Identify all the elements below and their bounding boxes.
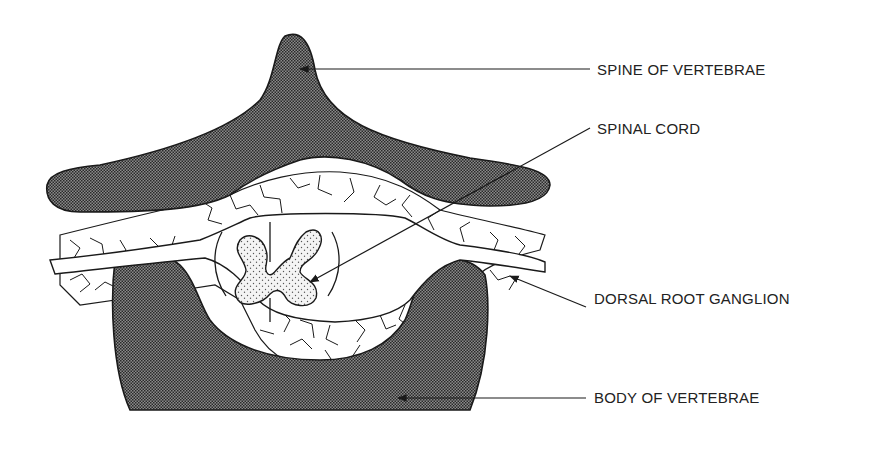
label-spinal-cord: SPINAL CORD — [597, 120, 700, 137]
label-spine-of-vertebrae: SPINE OF VERTEBRAE — [597, 61, 765, 78]
label-dorsal-root-ganglion: DORSAL ROOT GANGLION — [594, 290, 790, 307]
ganglion-leader-line — [510, 276, 586, 307]
label-body-of-vertebrae: BODY OF VERTEBRAE — [594, 389, 759, 406]
